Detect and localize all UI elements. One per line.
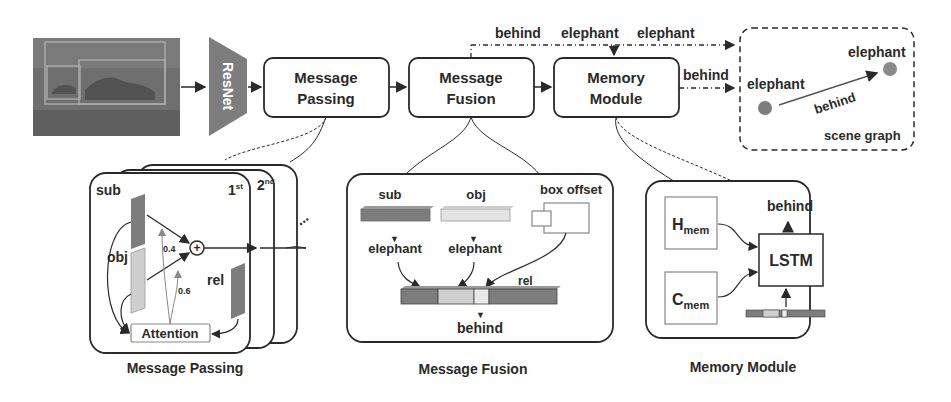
svg-text:▼: ▼ bbox=[476, 310, 485, 320]
architecture-diagram: ResNet Message Passing Message Fusion Me… bbox=[0, 0, 951, 402]
svg-text:elephant: elephant bbox=[637, 25, 695, 41]
svg-text:sub: sub bbox=[96, 182, 121, 198]
memory-module-detail: Hmem Cmem LSTM behind Memory Module bbox=[646, 181, 825, 375]
svg-text:LSTM: LSTM bbox=[769, 252, 813, 269]
svg-text:box offset: box offset bbox=[540, 182, 603, 197]
svg-text:0.6: 0.6 bbox=[178, 286, 191, 296]
svg-text:Passing: Passing bbox=[297, 90, 355, 107]
memory-output-path: behind bbox=[679, 67, 734, 88]
sub-feature bbox=[131, 194, 145, 249]
svg-text:ResNet: ResNet bbox=[220, 62, 236, 111]
fusion-sub-feature bbox=[361, 209, 430, 221]
subject-node bbox=[758, 101, 772, 115]
svg-text:behind: behind bbox=[683, 67, 729, 83]
svg-text:rel: rel bbox=[207, 272, 224, 288]
svg-text:behind: behind bbox=[457, 320, 503, 336]
svg-text:0.4: 0.4 bbox=[163, 244, 176, 254]
svg-text:behind: behind bbox=[495, 25, 541, 41]
stage-message-passing: Message Passing bbox=[264, 58, 389, 117]
svg-text:Message: Message bbox=[439, 69, 502, 86]
stage-message-fusion: Message Fusion bbox=[409, 58, 534, 117]
box-offset-small bbox=[532, 211, 551, 226]
fused-feature-vector bbox=[401, 286, 561, 304]
lstm-input-vector bbox=[746, 310, 825, 317]
svg-text:obj: obj bbox=[466, 187, 486, 202]
svg-text:elephant: elephant bbox=[747, 76, 805, 92]
memory-module-caption: Memory Module bbox=[690, 359, 797, 375]
svg-text:+: + bbox=[193, 241, 200, 255]
svg-text:Memory: Memory bbox=[587, 69, 645, 86]
input-image bbox=[33, 38, 180, 136]
svg-text:sub: sub bbox=[378, 187, 401, 202]
stage-memory-module: Memory Module bbox=[554, 58, 679, 117]
object-node bbox=[883, 62, 897, 76]
obj-feature bbox=[131, 248, 145, 313]
message-passing-caption: Message Passing bbox=[127, 360, 244, 376]
svg-text:behind: behind bbox=[767, 198, 813, 214]
scene-graph: elephant elephant behind scene graph bbox=[740, 28, 914, 150]
svg-text:elephant: elephant bbox=[368, 241, 422, 256]
svg-text:elephant: elephant bbox=[561, 25, 619, 41]
svg-text:elephant: elephant bbox=[448, 241, 502, 256]
rel-feature bbox=[231, 263, 245, 319]
top-output-path: behind elephant elephant bbox=[471, 25, 734, 58]
message-fusion-caption: Message Fusion bbox=[419, 361, 528, 377]
fusion-obj-feature bbox=[441, 209, 510, 221]
svg-text:Fusion: Fusion bbox=[446, 90, 495, 107]
svg-text:elephant: elephant bbox=[848, 44, 906, 60]
svg-text:scene graph: scene graph bbox=[824, 128, 901, 143]
svg-text:rel: rel bbox=[518, 274, 533, 288]
resnet-backbone: ResNet bbox=[209, 37, 247, 136]
svg-text:Message: Message bbox=[294, 69, 357, 86]
svg-text:Module: Module bbox=[590, 90, 643, 107]
message-fusion-detail: sub obj box offset ▼ ▼ elephant elephant… bbox=[347, 174, 613, 377]
message-passing-detail: sub obj rel + 0.4 0.6 Attention 1st 2nd … bbox=[90, 165, 311, 376]
svg-text:Attention: Attention bbox=[141, 326, 198, 341]
